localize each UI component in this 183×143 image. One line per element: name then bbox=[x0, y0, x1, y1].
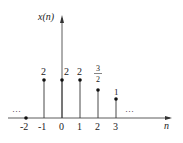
tick-label: 0 bbox=[59, 121, 64, 132]
stem-markers bbox=[24, 78, 118, 120]
marker-n-1 bbox=[78, 78, 82, 82]
x-tick-labels: -2 -1 0 1 2 3 bbox=[20, 121, 118, 132]
marker-n-minus-1 bbox=[42, 78, 46, 82]
value-label-n-0: 2 bbox=[64, 66, 69, 77]
x-axis-label: n bbox=[164, 120, 169, 131]
svg-text:2: 2 bbox=[96, 75, 100, 84]
value-label-n-1: 2 bbox=[77, 66, 82, 77]
stem-plot: x(n) n ··· ··· 2 2 2 3 2 1 -2 -1 0 1 2 3 bbox=[0, 0, 183, 143]
value-label-n-2: 3 2 bbox=[94, 64, 102, 84]
marker-n-3 bbox=[114, 97, 118, 101]
marker-n-minus-2 bbox=[24, 116, 28, 120]
y-axis-arrow-icon bbox=[60, 15, 64, 23]
ellipsis-right: ··· bbox=[125, 106, 134, 116]
marker-n-0 bbox=[60, 78, 64, 82]
tick-label: 2 bbox=[95, 121, 100, 132]
value-label-n-minus-1: 2 bbox=[41, 66, 46, 77]
marker-n-2 bbox=[96, 88, 100, 92]
tick-label: -1 bbox=[38, 121, 46, 132]
ellipsis-left: ··· bbox=[12, 106, 21, 116]
tick-label: -2 bbox=[20, 121, 28, 132]
value-label-n-3: 1 bbox=[114, 87, 119, 97]
tick-label: 3 bbox=[113, 121, 118, 132]
stems bbox=[44, 80, 116, 118]
svg-text:3: 3 bbox=[96, 64, 100, 73]
y-axis-label: x(n) bbox=[37, 11, 55, 23]
tick-label: 1 bbox=[77, 121, 82, 132]
